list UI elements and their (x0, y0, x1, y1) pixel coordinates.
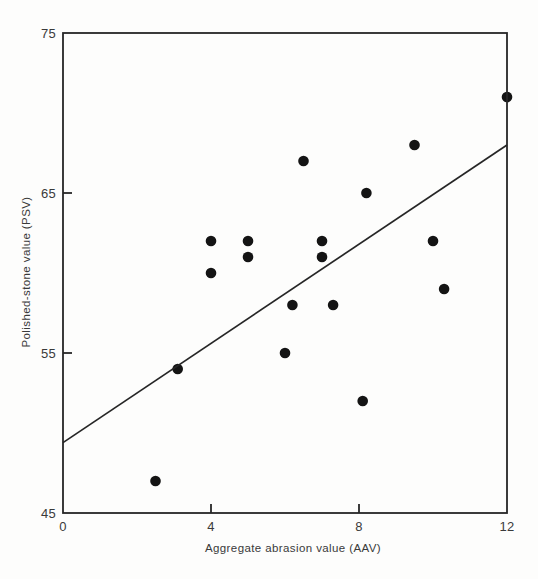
data-point (280, 348, 291, 359)
data-point (357, 396, 368, 407)
scatter-chart: 7565554512840 Aggregate abrasion value (… (0, 0, 538, 579)
x-tick-label: 8 (355, 519, 363, 534)
plot-frame (63, 33, 507, 513)
data-point (243, 252, 254, 263)
data-point (439, 284, 450, 295)
x-axis-title: Aggregate abrasion value (AAV) (205, 542, 381, 554)
y-axis-title: Polished-stone value (PSV) (20, 196, 32, 347)
data-point (317, 252, 328, 263)
data-point (206, 236, 217, 247)
data-point (409, 140, 420, 151)
x-tick-label: 0 (59, 519, 67, 534)
data-point (328, 300, 339, 311)
y-tick-label: 55 (41, 346, 56, 361)
scatter-plot-figure: 7565554512840 Aggregate abrasion value (… (0, 0, 538, 579)
x-tick-label: 4 (207, 519, 215, 534)
data-point (428, 236, 439, 247)
data-point (243, 236, 254, 247)
data-point (287, 300, 298, 311)
data-point (317, 236, 328, 247)
data-point (206, 268, 217, 279)
data-point (298, 156, 309, 167)
y-tick-label: 65 (41, 186, 56, 201)
data-point (150, 476, 161, 487)
y-tick-label: 75 (41, 26, 56, 41)
x-tick-label: 12 (499, 519, 514, 534)
data-point (361, 188, 372, 199)
y-tick-label: 45 (41, 506, 56, 521)
trend-line (63, 145, 507, 443)
